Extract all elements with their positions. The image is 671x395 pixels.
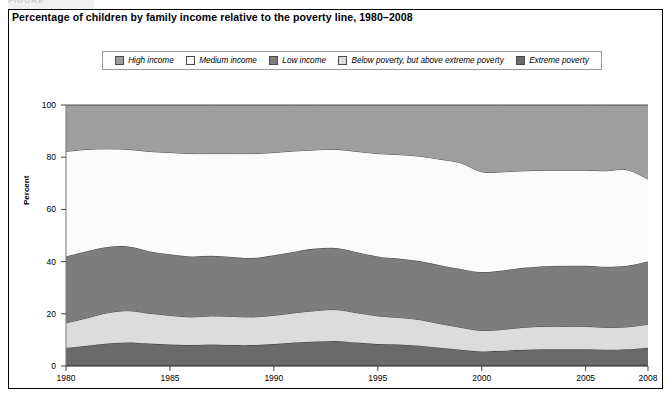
x-tick-1985: 1985	[150, 373, 190, 383]
stacked-area-chart	[0, 0, 671, 395]
chart-plot-area: Percent 02040608010019801985199019952000…	[0, 0, 671, 395]
y-tick-0: 0	[32, 361, 56, 371]
y-tick-80: 80	[32, 152, 56, 162]
x-tick-2000: 2000	[462, 373, 502, 383]
y-tick-40: 40	[32, 257, 56, 267]
x-tick-1995: 1995	[358, 373, 398, 383]
x-tick-2005: 2005	[566, 373, 606, 383]
y-tick-100: 100	[32, 100, 56, 110]
y-tick-60: 60	[32, 204, 56, 214]
y-tick-20: 20	[32, 309, 56, 319]
x-tick-2008: 2008	[628, 373, 668, 383]
x-tick-1980: 1980	[46, 373, 86, 383]
x-tick-1990: 1990	[254, 373, 294, 383]
